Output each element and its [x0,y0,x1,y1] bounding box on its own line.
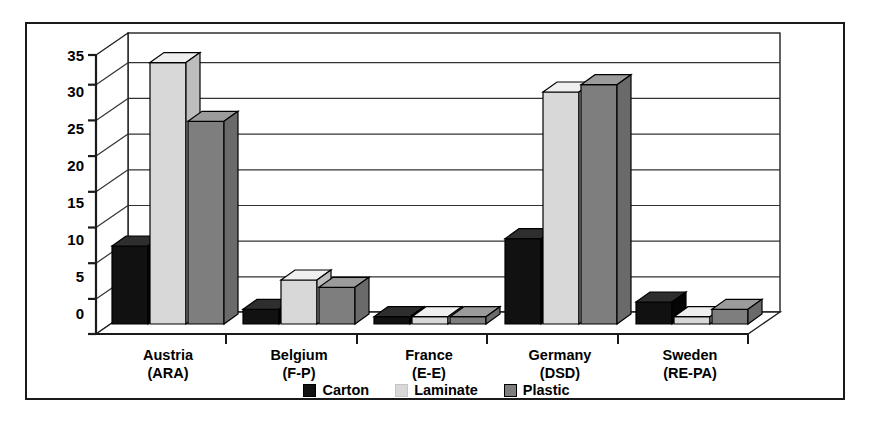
x-axis-label-austria: Austria (ARA) [93,346,243,382]
legend-label-laminate: Laminate [414,382,478,398]
x-axis-label-austria-org: (ARA) [147,365,188,381]
bar-germany-plastic [581,75,631,324]
legend-swatch-carton-icon [303,384,316,397]
legend-item-laminate: Laminate [395,382,478,398]
x-axis-label-austria-name: Austria [143,347,193,363]
legend-swatch-plastic-icon [504,384,517,397]
x-axis-label-belgium-name: Belgium [270,347,327,363]
x-axis-label-belgium-org: (F-P) [282,365,315,381]
x-axis-label-belgium: Belgium (F-P) [224,346,374,382]
chart-legend: Carton Laminate Plastic [0,382,873,398]
legend-label-carton: Carton [322,382,369,398]
bar-chart-plot: 35 30 25 20 15 10 5 0 [0,0,873,426]
x-axis-label-france-org: (E-E) [412,365,446,381]
legend-item-carton: Carton [303,382,369,398]
legend-label-plastic: Plastic [523,382,570,398]
bar-group-france [374,307,500,324]
x-axis-label-france-name: France [405,347,453,363]
x-axis-label-germany-name: Germany [529,347,592,363]
legend-item-plastic: Plastic [504,382,570,398]
x-axis-label-germany-org: (DSD) [540,365,580,381]
x-axis [96,334,748,344]
x-axis-label-france: France (E-E) [354,346,504,382]
legend-swatch-laminate-icon [395,384,408,397]
x-axis-label-sweden: Sweden (RE-PA) [615,346,765,382]
bar-austria-plastic [188,111,238,324]
bar-belgium-plastic [319,277,369,324]
y-axis [88,55,96,334]
x-axis-label-sweden-name: Sweden [663,347,718,363]
x-axis-label-sweden-org: (RE-PA) [663,365,717,381]
x-axis-label-germany: Germany (DSD) [485,346,635,382]
